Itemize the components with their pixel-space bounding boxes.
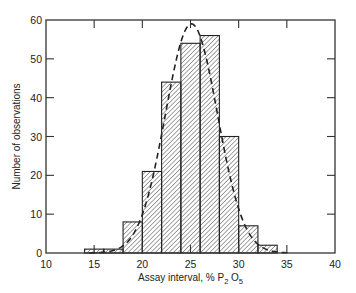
y-tick-label: 50: [30, 53, 42, 65]
y-axis-title: Number of observations: [11, 83, 22, 189]
y-tick-label: 10: [30, 208, 42, 220]
x-tick-label: 35: [281, 258, 293, 270]
y-tick-label: 0: [36, 247, 42, 259]
histogram-bar: [162, 82, 181, 253]
x-tick-label: 40: [329, 258, 341, 270]
histogram-bar: [123, 222, 142, 253]
y-tick-label: 60: [30, 14, 42, 26]
histogram-chart: 10152025303540 0102030405060 Assay inter…: [0, 0, 356, 293]
x-tick-label: 10: [40, 258, 52, 270]
histogram-bar: [239, 226, 258, 253]
histogram-bar: [219, 137, 238, 254]
y-tick-label: 30: [30, 131, 42, 143]
x-tick-label: 25: [185, 258, 197, 270]
x-tick-label: 15: [88, 258, 100, 270]
histogram-bar: [181, 43, 200, 253]
x-tick-label: 30: [233, 258, 245, 270]
y-tick-label: 20: [30, 169, 42, 181]
y-tick-label: 40: [30, 92, 42, 104]
histogram-bars: [85, 36, 278, 253]
histogram-bar: [200, 36, 219, 253]
x-axis-title: Assay interval, % P2 O5: [138, 272, 243, 286]
x-tick-label: 20: [136, 258, 148, 270]
